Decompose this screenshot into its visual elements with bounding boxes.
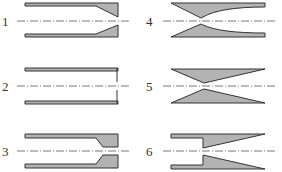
- centerlines: [17, 21, 277, 151]
- nozzle-4: [171, 3, 265, 37]
- nozzle-diagram: 1 2 3 4 5 6: [0, 0, 282, 172]
- nozzle-6: [171, 134, 265, 169]
- nozzle-1: [25, 3, 118, 37]
- diagram-svg: [0, 0, 282, 172]
